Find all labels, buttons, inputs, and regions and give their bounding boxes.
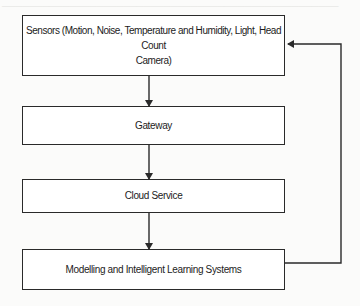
node-sensors-label-line1: Sensors (Motion, Noise, Temperature and … xyxy=(23,23,284,53)
node-sensors-label-line2: Camera) xyxy=(23,53,284,68)
node-gateway: Gateway xyxy=(22,106,285,145)
node-cloud-service: Cloud Service xyxy=(22,179,285,213)
arrow-feedback-modelling-to-sensors xyxy=(285,44,341,263)
node-modelling: Modelling and Intelligent Learning Syste… xyxy=(22,249,285,290)
node-cloud-service-label: Cloud Service xyxy=(125,189,183,203)
node-modelling-label: Modelling and Intelligent Learning Syste… xyxy=(66,263,242,277)
node-gateway-label: Gateway xyxy=(135,119,172,133)
node-sensors: Sensors (Motion, Noise, Temperature and … xyxy=(22,15,285,76)
